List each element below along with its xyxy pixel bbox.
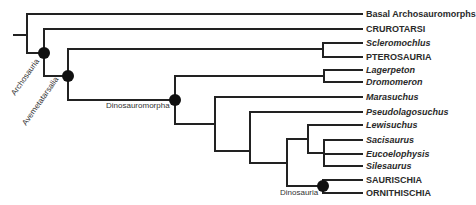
taxon-labels: Basal Archosauromorphs CRUROTARSI Sclero… [366,9,476,198]
taxon-pterosauria: PTEROSAURIA [366,52,432,62]
clade-label-archosauria: Archosauria [9,57,41,98]
cladogram: Archosauria Avemetatarsalia Dinosauromor… [0,0,476,205]
archosauria-node-marker [38,47,50,59]
dinosauria-node-marker [317,180,329,192]
taxon-pseudolagosuchus: Pseudolagosuchus [366,107,449,117]
taxon-scleromochlus: Scleromochlus [366,38,431,48]
taxon-silesaurus: Silesaurus [366,161,412,171]
dinosauromorpha-node-marker [169,94,181,106]
branches [14,14,362,193]
taxon-basal-archosauromorphs: Basal Archosauromorphs [366,9,476,19]
taxon-crurotarsi: CRUROTARSI [366,24,425,34]
avemetatarsalia-node-marker [62,70,74,82]
taxon-marasuchus: Marasuchus [366,92,419,102]
clade-label-dinosauria: Dinosauria [280,188,319,197]
clade-nodes [38,47,329,192]
taxon-ornithischia: ORNITHISCHIA [366,188,432,198]
taxon-lagerpeton: Lagerpeton [366,65,416,75]
clade-label-dinosauromorpha: Dinosauromorpha [106,101,170,110]
taxon-lewisuchus: Lewisuchus [366,120,418,130]
taxon-saurischia: SAURISCHIA [366,175,423,185]
taxon-sacisaurus: Sacisaurus [366,135,414,145]
taxon-dromomeron: Dromomeron [366,77,423,87]
taxon-eucoelophysis: Eucoelophysis [366,149,430,159]
clade-labels: Archosauria Avemetatarsalia Dinosauromor… [9,57,319,197]
